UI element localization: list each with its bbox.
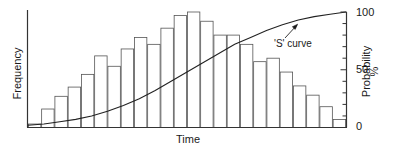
s-curve-leader bbox=[285, 24, 298, 38]
s-curve-annotation-label: 'S' curve bbox=[274, 39, 312, 49]
histogram-bar bbox=[214, 35, 226, 127]
x-axis-label-time: Time bbox=[148, 134, 228, 145]
y2-tick-label-100: 100 bbox=[356, 7, 374, 18]
histogram-bar bbox=[161, 28, 173, 127]
histogram-bar bbox=[280, 72, 292, 127]
histogram-bar bbox=[293, 86, 305, 128]
y-axis-label-frequency: Frequency bbox=[12, 34, 23, 114]
histogram-bar bbox=[227, 35, 239, 127]
histogram-bars bbox=[28, 12, 345, 128]
histogram-bar bbox=[81, 74, 93, 127]
histogram-bar bbox=[68, 87, 80, 127]
histogram-bar bbox=[95, 56, 107, 128]
histogram-bar bbox=[333, 119, 345, 127]
histogram-bar bbox=[55, 96, 67, 127]
histogram-bar bbox=[320, 107, 332, 128]
right-axis-ticks bbox=[341, 12, 347, 128]
histogram-bar bbox=[42, 109, 54, 127]
y2-tick-label-50: 50 bbox=[356, 64, 368, 75]
histogram-bar bbox=[187, 12, 199, 128]
y2-axis-label-percent: % bbox=[369, 57, 380, 87]
y2-tick-label-0: 0 bbox=[356, 121, 362, 132]
frequency-s-curve-chart: Frequency Time Probability % 100 50 0 'S… bbox=[0, 0, 398, 153]
histogram-bar bbox=[307, 95, 319, 127]
histogram-bar bbox=[121, 49, 133, 128]
histogram-bar bbox=[108, 66, 120, 127]
histogram-bar bbox=[254, 62, 266, 128]
histogram-bar bbox=[240, 44, 252, 127]
chart-canvas bbox=[0, 0, 398, 153]
histogram-bar bbox=[134, 37, 146, 127]
histogram-bar bbox=[174, 15, 186, 127]
histogram-bar bbox=[148, 44, 160, 127]
histogram-bar bbox=[201, 21, 213, 127]
histogram-bar bbox=[267, 58, 279, 127]
